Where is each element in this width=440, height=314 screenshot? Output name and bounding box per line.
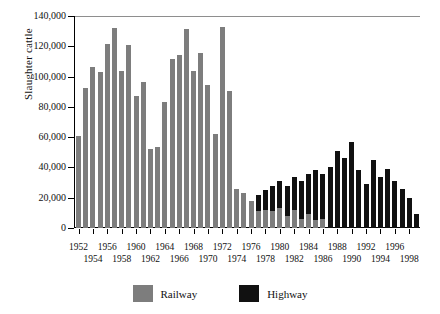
x-tick-label: 1978 <box>252 255 278 265</box>
bar <box>256 195 261 228</box>
x-tick <box>136 229 137 234</box>
bar-segment-highway <box>364 184 369 228</box>
bar-segment-railway <box>213 134 218 228</box>
legend-label-highway: Highway <box>267 288 307 300</box>
x-tick-label: 1996 <box>382 243 408 253</box>
bar <box>414 214 419 228</box>
bar-segment-railway <box>292 210 297 228</box>
x-tick <box>309 229 310 234</box>
x-tick-label: 1990 <box>339 255 365 265</box>
y-tick <box>68 16 74 17</box>
bar <box>292 177 297 228</box>
bar-segment-highway <box>263 190 268 210</box>
bar <box>184 29 189 228</box>
bar <box>155 147 160 228</box>
legend-item-railway[interactable]: Railway <box>133 285 198 302</box>
x-tick-label: 1956 <box>94 243 120 253</box>
x-tick-label: 1980 <box>267 243 293 253</box>
bar <box>400 189 405 228</box>
bar-segment-highway <box>414 214 419 228</box>
x-tick <box>323 229 324 234</box>
y-tick-label: 100,000 <box>34 72 67 82</box>
y-tick <box>68 77 74 78</box>
x-tick <box>165 229 166 234</box>
bar-segment-highway <box>407 198 412 228</box>
bar-segment-railway <box>155 147 160 228</box>
bar-segment-railway <box>227 91 232 228</box>
x-tick-label: 1966 <box>166 255 192 265</box>
x-tick-label: 1974 <box>224 255 250 265</box>
bar <box>407 198 412 228</box>
bar <box>306 174 311 229</box>
bar-segment-railway <box>220 27 225 228</box>
bar <box>227 91 232 228</box>
bar <box>356 170 361 228</box>
chart-legend: Railway Highway <box>0 285 440 302</box>
bar <box>220 27 225 228</box>
bar-segment-highway <box>349 142 354 228</box>
y-tick <box>68 198 74 199</box>
y-tick-label: 60,000 <box>39 132 67 142</box>
bar <box>270 186 275 228</box>
x-tick-label: 1994 <box>367 255 393 265</box>
bar <box>313 170 318 228</box>
bar <box>349 142 354 228</box>
bar <box>213 134 218 228</box>
bar-segment-highway <box>378 177 383 228</box>
bar <box>328 167 333 228</box>
bar-segment-highway <box>328 167 333 228</box>
y-tick <box>68 46 74 47</box>
x-tick <box>208 229 209 234</box>
bar <box>234 189 239 228</box>
x-tick <box>352 229 353 234</box>
bar-segment-railway <box>285 216 290 228</box>
bar-segment-railway <box>134 96 139 228</box>
legend-item-highway[interactable]: Highway <box>239 285 307 302</box>
x-tick <box>79 229 80 234</box>
bar-segment-railway <box>249 201 254 228</box>
x-tick <box>251 229 252 234</box>
bar-segment-railway <box>241 193 246 228</box>
bar <box>177 55 182 228</box>
x-tick <box>337 229 338 234</box>
bar <box>249 201 254 228</box>
bar-segment-highway <box>277 181 282 208</box>
bar-segment-railway <box>126 45 131 228</box>
x-tick <box>265 229 266 234</box>
bar-segment-highway <box>400 189 405 228</box>
bar <box>198 53 203 228</box>
x-tick <box>366 229 367 234</box>
x-tick-label: 1986 <box>310 255 336 265</box>
y-tick-label: 140,000 <box>34 11 67 21</box>
bar-segment-railway <box>162 102 167 228</box>
bar-segment-railway <box>191 71 196 228</box>
bar-segment-highway <box>371 160 376 228</box>
bar <box>241 193 246 228</box>
highway-swatch-icon <box>239 285 259 302</box>
bar <box>392 181 397 228</box>
bar-segment-railway <box>112 28 117 228</box>
bar-segment-highway <box>270 186 275 212</box>
y-tick-label: 80,000 <box>39 102 67 112</box>
x-tick-label: 1998 <box>396 255 422 265</box>
bar <box>90 67 95 228</box>
bar <box>205 85 210 228</box>
bar-segment-railway <box>170 59 175 228</box>
y-tick-label: 20,000 <box>39 193 67 203</box>
x-tick <box>194 229 195 234</box>
y-tick <box>68 137 74 138</box>
bar-segment-railway <box>299 219 304 228</box>
bar <box>141 82 146 228</box>
bar <box>320 174 325 229</box>
bar-segment-highway <box>292 177 297 210</box>
bar <box>335 151 340 228</box>
bar-segment-highway <box>299 181 304 219</box>
bar <box>134 96 139 228</box>
x-tick <box>380 229 381 234</box>
bar <box>342 158 347 228</box>
bar-segment-railway <box>177 55 182 228</box>
y-tick-label: 120,000 <box>34 41 67 51</box>
bar-segment-railway <box>306 214 311 228</box>
bar-segment-railway <box>277 208 282 228</box>
bar-segment-highway <box>306 174 311 215</box>
